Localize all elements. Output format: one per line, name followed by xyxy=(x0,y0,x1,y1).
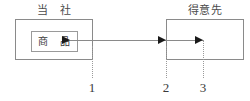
reference-line-1 xyxy=(92,46,93,78)
reference-number-3: 3 xyxy=(195,80,211,95)
reference-line-2 xyxy=(166,46,167,78)
company-label: 当 社 xyxy=(15,3,93,17)
customer-label: 得意先 xyxy=(166,3,244,17)
arrowhead-icon-1 xyxy=(62,36,70,44)
arrowhead-icon-3 xyxy=(195,36,203,44)
reference-number-2: 2 xyxy=(158,80,174,95)
reference-number-1: 1 xyxy=(84,80,100,95)
reference-line-3 xyxy=(203,40,204,78)
goods-box: 商 品 xyxy=(31,31,78,52)
flow-line xyxy=(62,40,204,41)
diagram-canvas: 当 社 得意先 商 品 1 2 3 xyxy=(0,0,250,101)
arrowhead-icon-2 xyxy=(158,36,166,44)
